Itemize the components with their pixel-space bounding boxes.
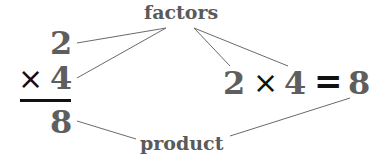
multiplication-diagram: factors product 2 × 4 8 2 × 4 = 8	[0, 0, 389, 164]
leader-factors-to-horizontal-4	[194, 28, 288, 66]
horizontal-result: 8	[348, 67, 370, 99]
horizontal-factor-b: 4	[284, 67, 306, 99]
equals-sign: =	[314, 64, 343, 98]
product-label: product	[140, 134, 223, 153]
horizontal-times-sign: ×	[253, 68, 278, 98]
leader-factors-to-horizontal-2	[194, 28, 230, 66]
vertical-top-factor: 2	[50, 27, 72, 59]
vertical-result-rule	[20, 99, 71, 102]
horizontal-factor-a: 2	[223, 67, 245, 99]
factors-label: factors	[144, 3, 218, 22]
vertical-times-sign: ×	[18, 64, 43, 94]
vertical-bottom-factor: 4	[50, 62, 72, 94]
vertical-result: 8	[50, 106, 72, 138]
leader-product-to-horizontal-8	[230, 98, 350, 136]
leader-product-to-vertical-8	[77, 121, 136, 139]
